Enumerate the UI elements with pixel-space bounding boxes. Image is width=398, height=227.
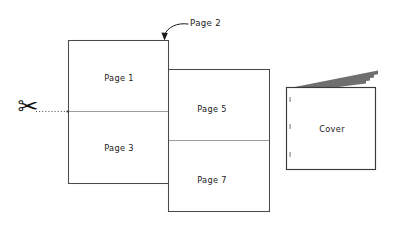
cut-line-endpoint <box>66 110 68 112</box>
panel-label-page-5: Page 5 <box>197 104 227 114</box>
panel-label-page-1: Page 1 <box>104 73 134 83</box>
callout-label-page-2: Page 2 <box>190 18 221 28</box>
binding-mark-bottom <box>289 152 290 157</box>
sheet-front: Page 1 Page 3 <box>69 41 169 184</box>
callout-page-2: Page 2 <box>161 18 221 41</box>
panel-label-page-7: Page 7 <box>197 175 227 185</box>
scissors-icon: ✂ <box>18 92 39 121</box>
callout-arrow-curve <box>165 24 189 35</box>
diagram-canvas: Page 5 Page 7 Page 1 Page 3 ✂ Page 2 <box>0 0 398 227</box>
panel-label-page-3: Page 3 <box>104 143 134 153</box>
booklet-diagram: Page 5 Page 7 Page 1 Page 3 ✂ Page 2 <box>0 0 398 227</box>
cut-guide: ✂ <box>18 92 69 121</box>
finished-booklet: Cover <box>287 71 379 170</box>
sheet-back: Page 5 Page 7 <box>169 70 270 212</box>
booklet-cover-label: Cover <box>319 124 345 134</box>
sheet-front-outline <box>69 41 169 184</box>
binding-mark-top <box>289 97 290 102</box>
callout-arrow-head <box>161 33 167 41</box>
binding-mark-middle <box>289 124 290 129</box>
